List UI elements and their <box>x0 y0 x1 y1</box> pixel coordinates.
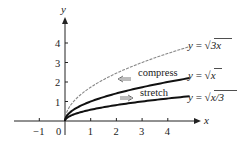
y-axis-arrow-icon <box>62 17 68 24</box>
x-tick-label: −1 <box>33 126 44 137</box>
curve-sqrt-x <box>65 78 190 121</box>
y-axis-label: y <box>60 3 66 15</box>
curve-sqrt-x-over-3 <box>65 96 190 121</box>
curve-sqrt-3x <box>65 47 190 121</box>
chart: x y −11234 1234 0 y = √3x y = √x y = √x/… <box>0 0 248 146</box>
svg-text:y = √x: y = √x <box>187 69 216 81</box>
label-sqrt-3x: y = √3x <box>187 39 232 52</box>
y-tick-label: 3 <box>55 58 60 69</box>
x-tick-label: 1 <box>88 126 93 137</box>
compress-label: compress <box>138 67 178 78</box>
y-ticks: 1234 <box>55 38 68 108</box>
label-sqrt-x-over-3: y = √x/3 <box>187 91 237 104</box>
right-arrow-icon <box>120 95 133 101</box>
y-tick-label: 1 <box>55 97 60 108</box>
x-tick-label: 2 <box>113 126 118 137</box>
origin-label: 0 <box>56 126 61 137</box>
x-axis-label: x <box>203 114 209 126</box>
svg-text:y = √3x: y = √3x <box>187 39 221 51</box>
svg-text:y = √x/3: y = √x/3 <box>187 91 225 103</box>
x-axis-arrow-icon <box>194 118 201 124</box>
y-tick-label: 2 <box>55 77 60 88</box>
x-tick-label: 3 <box>139 126 144 137</box>
stretch-label: stretch <box>140 87 169 98</box>
label-sqrt-x: y = √x <box>187 69 222 82</box>
left-arrow-icon <box>118 76 131 82</box>
y-tick-label: 4 <box>55 38 61 49</box>
x-tick-label: 4 <box>165 126 171 137</box>
